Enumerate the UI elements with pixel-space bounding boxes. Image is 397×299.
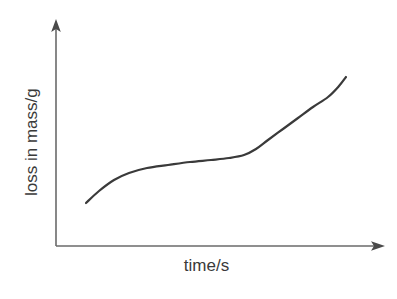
chart-plot-area — [0, 0, 397, 299]
x-axis-label: time/s — [0, 257, 397, 274]
data-curve-line — [86, 77, 346, 203]
chart-figure: loss in mass/g time/s — [0, 0, 397, 299]
y-axis-label: loss in mass/g — [23, 88, 40, 196]
